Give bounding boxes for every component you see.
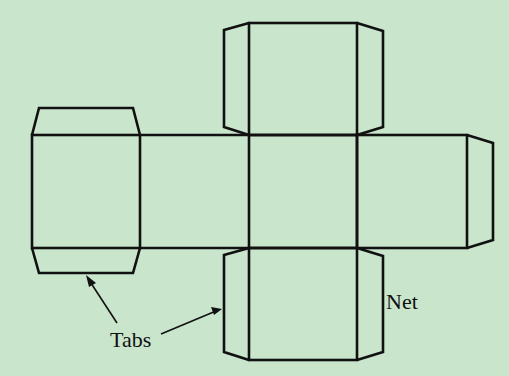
- bottom-face: [249, 248, 357, 360]
- arrowhead-left-icon: [86, 275, 96, 287]
- tabs-label: Tabs: [110, 329, 151, 351]
- right-face: [357, 135, 467, 248]
- center-face: [249, 135, 357, 248]
- arrowhead-right-icon: [211, 307, 222, 315]
- cube-net-diagram: Tabs Net: [0, 0, 509, 376]
- arrow-tabs-to-bottom-tab: [161, 311, 216, 334]
- tab-left-face-bottom: [32, 248, 140, 273]
- arrow-tabs-to-left-tab: [89, 280, 117, 323]
- tab-left-face-top: [32, 108, 140, 135]
- left-face: [32, 135, 140, 248]
- tab-bottom-face-left: [224, 248, 249, 360]
- tab-bottom-face-right: [357, 248, 383, 360]
- tab-right-face-right: [467, 135, 493, 248]
- tab-top-face-left: [224, 23, 249, 135]
- strip-connector: [140, 135, 249, 248]
- net-label: Net: [386, 291, 418, 313]
- top-face: [249, 23, 357, 135]
- tab-top-face-right: [357, 23, 383, 135]
- cube-net-drawing: [0, 0, 509, 376]
